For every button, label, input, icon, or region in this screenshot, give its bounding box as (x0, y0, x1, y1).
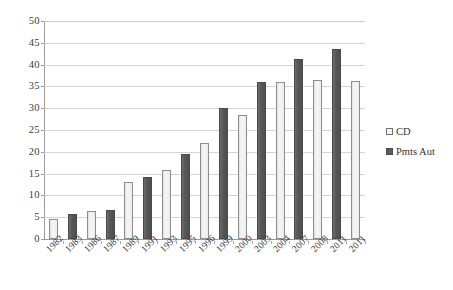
y-tick-label-0: 0 (2, 234, 40, 244)
bar-1999-pmts-aut (219, 108, 228, 239)
legend-label: CD (396, 126, 411, 137)
x-axis-tick-labels: 1982198319861987198919911993199519961999… (44, 241, 365, 290)
legend-swatch-icon-pmts (386, 148, 393, 155)
y-tick-label-35: 35 (2, 81, 40, 91)
bar-2003-pmts-aut (257, 82, 266, 239)
legend-item-pmts-aut[interactable]: Pmts Aut (386, 146, 453, 157)
bar-2004-cd (276, 82, 285, 239)
bar-chart: 50454035302520151050 1982198319861987198… (0, 0, 453, 290)
bar-2008-cd (313, 80, 322, 239)
gridline-50 (44, 21, 365, 22)
y-tick-label-5: 5 (2, 212, 40, 222)
bar-1991-pmts-aut (143, 177, 152, 239)
legend-label: Pmts Aut (396, 146, 435, 157)
legend-swatch-icon-cd (386, 128, 393, 135)
y-tick-label-20: 20 (2, 147, 40, 157)
y-tick-label-45: 45 (2, 38, 40, 48)
bar-1993-cd (162, 170, 171, 239)
y-tick-label-25: 25 (2, 125, 40, 135)
bar-1995-pmts-aut (181, 154, 190, 239)
plot-area (44, 21, 365, 239)
y-axis-tick-labels: 50454035302520151050 (0, 21, 40, 239)
y-tick-label-50: 50 (2, 16, 40, 26)
gridline-40 (44, 65, 365, 66)
gridline-45 (44, 43, 365, 44)
legend-item-cd[interactable]: CD (386, 126, 453, 137)
bar-1989-cd (124, 182, 133, 239)
y-tick-label-15: 15 (2, 169, 40, 179)
bar-1996-cd (200, 143, 209, 239)
bar-2011-cd (351, 81, 360, 239)
bar-2000-cd (238, 115, 247, 239)
bar-2011-pmts-aut (332, 49, 341, 239)
y-tick-label-30: 30 (2, 103, 40, 113)
y-tick-label-40: 40 (2, 60, 40, 70)
y-tick-label-10: 10 (2, 190, 40, 200)
bar-2007-pmts-aut (294, 59, 303, 240)
chart-legend: CDPmts Aut (386, 126, 453, 166)
